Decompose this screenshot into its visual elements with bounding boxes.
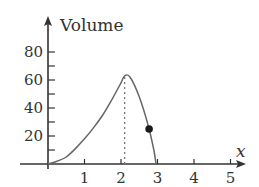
x-tick-label: 3: [153, 169, 163, 187]
y-tick-label: 60: [24, 71, 43, 89]
volume-curve: [48, 75, 156, 164]
x-tick-label: 1: [80, 169, 90, 187]
axes: 1234520406080: [20, 16, 246, 187]
x-axis-title: x: [236, 141, 246, 161]
x-tick-label: 2: [116, 169, 126, 187]
x-tick-label: 4: [189, 169, 199, 187]
annotations: [125, 76, 153, 164]
y-tick-label: 80: [24, 43, 43, 61]
data-point-dot: [145, 125, 153, 133]
y-tick-label: 40: [24, 99, 43, 117]
volume-chart: 1234520406080 Volume x: [0, 0, 259, 187]
y-axis-title: Volume: [59, 15, 124, 35]
x-tick-label: 5: [226, 169, 236, 187]
volume-curve-path: [48, 75, 156, 164]
y-tick-label: 20: [24, 127, 43, 145]
